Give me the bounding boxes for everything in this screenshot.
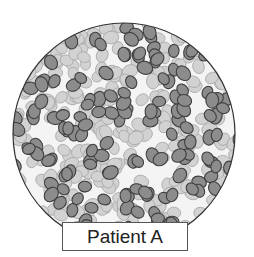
dark-cell bbox=[120, 189, 132, 203]
dark-cell bbox=[61, 167, 73, 181]
blood-smear-figure: Patient A bbox=[0, 0, 254, 257]
light-cell bbox=[206, 194, 221, 207]
dark-cell bbox=[206, 92, 219, 108]
dark-cell bbox=[78, 181, 92, 192]
light-cell bbox=[37, 206, 50, 221]
dark-cell bbox=[168, 44, 179, 58]
patient-label-text: Patient A bbox=[87, 226, 163, 248]
patient-label: Patient A bbox=[62, 222, 188, 251]
blood-smear-circle bbox=[0, 0, 254, 257]
